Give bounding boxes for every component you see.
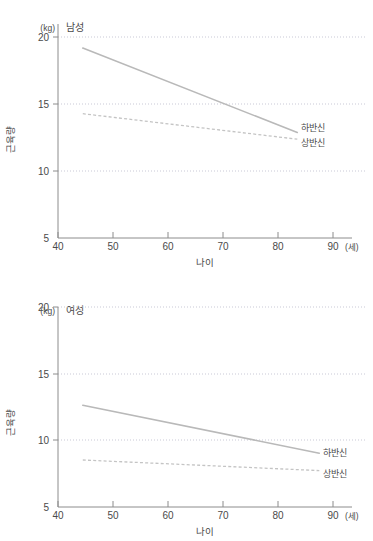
y-tick-label-20: 20 [38,302,50,313]
x-tick-label-50: 50 [107,241,119,252]
y-tick-label-5: 5 [43,502,49,513]
series-line-lower-body [83,405,319,453]
chart-female: (kg) 여성 근육량 20 15 10 5 40 50 60 70 80 90… [0,270,373,541]
x-tick-label-80: 80 [272,510,284,521]
x-axis-title: 나이 [196,257,214,268]
chart-male: (kg) 남성 근육량 20 15 10 5 40 50 60 70 80 [0,0,373,270]
chart-title: 여성 [66,305,84,316]
chart-title: 남성 [66,22,84,33]
y-axis-title: 근육량 [5,409,16,436]
series-label-upper-body: 상반신 [323,469,347,479]
y-tick-label-20: 20 [38,32,50,43]
x-tick-label-40: 40 [52,510,64,521]
y-axis-title: 근육량 [5,126,16,153]
series-line-lower-body [83,48,297,132]
x-tick-label-80: 80 [272,241,284,252]
y-tick-label-10: 10 [38,166,50,177]
series-label-lower-body: 하반신 [323,448,347,458]
chart-male-svg: (kg) 남성 근육량 20 15 10 5 40 50 60 70 80 [0,0,373,270]
y-tick-label-15: 15 [38,99,50,110]
series-line-upper-body [83,460,319,471]
x-tick-label-90: 90 [327,510,339,521]
x-unit-label: (세) [345,511,359,521]
series-line-upper-body [83,114,297,140]
x-tick-label-50: 50 [107,510,119,521]
x-tick-label-60: 60 [162,510,174,521]
x-unit-label: (세) [345,242,359,252]
y-tick-label-15: 15 [38,369,50,380]
x-tick-label-70: 70 [217,241,229,252]
y-tick-label-5: 5 [43,233,49,244]
x-tick-label-70: 70 [217,510,229,521]
x-tick-label-90: 90 [327,241,339,252]
series-label-upper-body: 상반신 [301,138,325,148]
x-tick-label-60: 60 [162,241,174,252]
y-tick-label-10: 10 [38,435,50,446]
x-tick-label-40: 40 [52,241,64,252]
x-axis-title: 나이 [196,526,214,537]
series-label-lower-body: 하반신 [301,123,325,133]
chart-female-svg: (kg) 여성 근육량 20 15 10 5 40 50 60 70 80 90… [0,270,373,541]
